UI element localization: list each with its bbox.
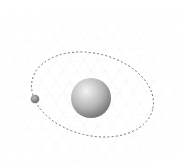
planet-sphere bbox=[71, 78, 111, 118]
orbit-diagram bbox=[0, 0, 185, 166]
moon-sphere bbox=[31, 95, 40, 104]
